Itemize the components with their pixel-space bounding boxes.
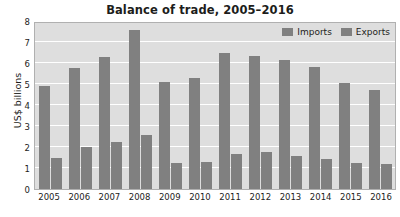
bar-group <box>305 23 335 189</box>
bar-exports <box>201 162 212 189</box>
bar-exports <box>141 135 152 189</box>
bar-exports <box>51 158 62 190</box>
x-tick-label: 2010 <box>185 192 215 202</box>
bar-group <box>125 23 155 189</box>
bar-imports <box>339 83 350 189</box>
x-tick-label: 2011 <box>215 192 245 202</box>
legend-item[interactable]: Imports <box>282 27 332 37</box>
bar-exports <box>81 147 92 189</box>
legend-swatch-icon <box>282 28 293 36</box>
bar-exports <box>291 156 302 189</box>
legend-label: Imports <box>297 27 332 37</box>
x-tick-label: 2015 <box>336 192 366 202</box>
x-tick-label: 2005 <box>34 192 64 202</box>
bar-imports <box>249 56 260 189</box>
x-tick-label: 2006 <box>64 192 94 202</box>
bar-exports <box>351 163 362 189</box>
x-tick-label: 2012 <box>245 192 275 202</box>
bar-exports <box>261 152 272 189</box>
bar-group <box>365 23 395 189</box>
y-tick-label: 8 <box>0 17 30 27</box>
plot-area <box>34 22 396 190</box>
bar-imports <box>189 78 200 189</box>
bar-imports <box>69 68 80 189</box>
bar-group <box>335 23 365 189</box>
x-tick-label: 2016 <box>366 192 396 202</box>
bar-group <box>245 23 275 189</box>
bar-group <box>65 23 95 189</box>
bar-imports <box>219 53 230 190</box>
bar-exports <box>381 164 392 189</box>
bar-exports <box>321 159 332 189</box>
bar-imports <box>39 86 50 189</box>
bar-group <box>185 23 215 189</box>
x-axis-labels: 2005200620072008200920102011201220132014… <box>34 192 396 202</box>
bar-imports <box>129 30 140 189</box>
bar-exports <box>231 154 242 189</box>
bar-groups <box>35 23 395 189</box>
bar-group <box>215 23 245 189</box>
legend-item[interactable]: Exports <box>341 27 390 37</box>
bar-exports <box>111 142 122 189</box>
legend-label: Exports <box>356 27 390 37</box>
x-tick-label: 2013 <box>275 192 305 202</box>
x-tick-label: 2009 <box>155 192 185 202</box>
x-tick-label: 2008 <box>125 192 155 202</box>
bar-imports <box>99 57 110 189</box>
bar-exports <box>171 163 182 189</box>
bar-group <box>155 23 185 189</box>
chart-title: Balance of trade, 2005–2016 <box>0 3 400 17</box>
bar-group <box>35 23 65 189</box>
bar-group <box>95 23 125 189</box>
y-axis-label: US$ billions <box>12 36 23 166</box>
bar-imports <box>279 60 290 189</box>
y-tick-label: 1 <box>0 164 30 174</box>
bar-imports <box>309 67 320 189</box>
legend-swatch-icon <box>341 28 352 36</box>
y-tick-label: 0 <box>0 185 30 195</box>
gridline <box>35 20 395 21</box>
bar-group <box>275 23 305 189</box>
chart-legend: ImportsExports <box>282 27 390 37</box>
x-tick-label: 2007 <box>94 192 124 202</box>
bar-imports <box>159 82 170 189</box>
bar-imports <box>369 90 380 189</box>
x-tick-label: 2014 <box>306 192 336 202</box>
chart-figure: Balance of trade, 2005–2016 US$ billions… <box>0 0 400 217</box>
